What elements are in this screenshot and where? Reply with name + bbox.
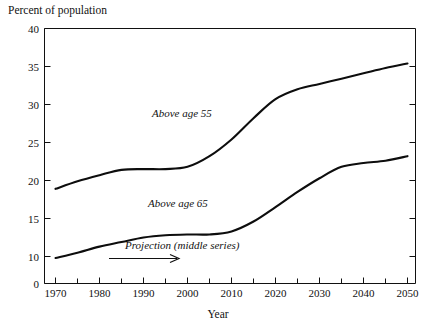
chart-container: Percent of population 40: [0, 0, 429, 325]
x-tick-label: 2030: [309, 287, 332, 299]
x-axis-tick-labels: 1970 1980 1990 2000 2010 2020 2030 2040 …: [45, 287, 420, 299]
series-label-above-age-55: Above age 55: [151, 107, 212, 119]
y-axis-title: Percent of population: [8, 4, 107, 17]
projection-annotation-label: Projection (middle series): [124, 239, 240, 252]
x-tick-label: 2010: [221, 287, 244, 299]
y-tick-label: 40: [28, 23, 40, 35]
y-tick-label: 15: [28, 213, 40, 225]
x-axis-title: Year: [207, 308, 228, 320]
x-tick-label: 1990: [133, 287, 156, 299]
y-tick-label: 20: [28, 175, 40, 187]
y-tick-label: 25: [28, 137, 40, 149]
x-tick-label: 2040: [353, 287, 376, 299]
x-tick-label: 2050: [397, 287, 420, 299]
y-tick-label: 35: [28, 61, 40, 73]
y-tick-label: 0: [34, 278, 40, 290]
x-tick-label: 2020: [265, 287, 288, 299]
population-aging-line-chart: Percent of population 40: [0, 0, 429, 325]
x-tick-label: 1970: [45, 287, 68, 299]
y-tick-label: 10: [28, 251, 40, 263]
y-tick-label: 30: [28, 99, 40, 111]
x-tick-label: 2000: [177, 287, 200, 299]
x-tick-label: 1980: [89, 287, 112, 299]
series-label-above-age-65: Above age 65: [147, 197, 208, 209]
